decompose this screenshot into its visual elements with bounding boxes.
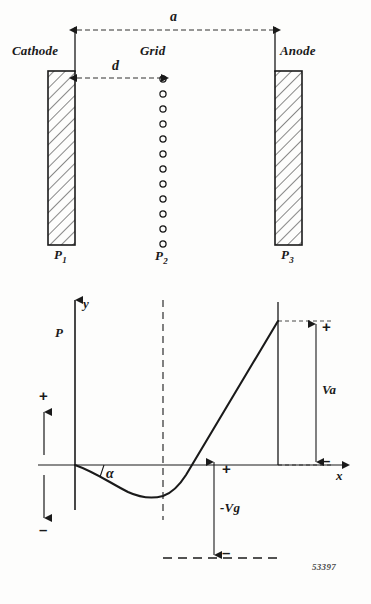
grid-label: Grid [140,43,165,59]
axis-minus-sign: – [39,521,48,538]
plate-label-p2: P2 [155,248,168,266]
x-axis-label: x [336,468,343,484]
alpha-angle-marker [100,465,104,477]
plate-label-p3-letter: P [281,247,289,262]
ordinate-label: P [55,325,63,341]
plate-label-p1-sub: 1 [62,255,67,265]
figure-serial-number: 53397 [312,562,336,572]
cathode-label: Cathode [12,43,58,59]
plate-label-p2-sub: 2 [163,256,168,266]
va-label: Va [322,382,336,398]
vg-label: -Vg [220,500,240,516]
grid-wires [160,76,166,247]
tube-potential-figure: Cathode Grid Anode a d P1 P2 P3 y x P + … [0,0,371,604]
cathode-plate [48,71,75,245]
plate-label-p3: P3 [281,247,294,265]
plate-label-p3-sub: 3 [289,255,294,265]
dimension-a-label: a [170,9,177,25]
axis-plus-sign: + [39,387,48,404]
anode-label: Anode [280,43,316,59]
y-axis-label: y [83,296,89,312]
plate-label-p1: P1 [54,247,67,265]
dimension-extension-lines [75,27,275,72]
plate-label-p2-letter: P [155,248,163,263]
va-plus-sign: + [322,318,331,335]
anode-plate [275,71,302,245]
figure-canvas [0,0,371,604]
plate-label-p1-letter: P [54,247,62,262]
alpha-angle-label: α [106,466,114,482]
va-minus-sign: – [322,452,331,469]
vg-minus-sign: – [222,544,231,561]
vg-plus-sign: + [222,460,231,477]
dimension-d-label: d [112,58,119,74]
